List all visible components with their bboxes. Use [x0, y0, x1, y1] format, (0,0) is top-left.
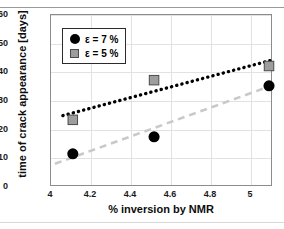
chart-legend: ε = 7 % ε = 5 %: [62, 28, 126, 64]
figure: 0102030405060 44.24.44.64.85 ε = 7 % ε =…: [0, 0, 284, 229]
data-point-epsilon-5: [149, 75, 159, 84]
x-axis-title: % inversion by NMR: [50, 203, 272, 215]
x-axis-tick-label: 4.6: [153, 190, 187, 199]
legend-marker-square-icon: [68, 49, 81, 58]
y-axis-tick-label: 50: [0, 39, 8, 48]
trendline-epsilon-7: [63, 60, 271, 115]
y-axis-tick-label: 60: [0, 10, 8, 19]
data-point-epsilon-7: [67, 148, 78, 159]
data-point-epsilon-5: [264, 61, 274, 70]
x-axis-tick-label: 4.8: [193, 190, 227, 199]
legend-label-epsilon-7: ε = 7 %: [85, 34, 118, 45]
legend-item-epsilon-7: ε = 7 %: [68, 32, 118, 46]
y-axis-tick-label: 30: [0, 96, 8, 105]
plot-area: ε = 7 % ε = 5 %: [50, 14, 272, 186]
y-axis-title: time of crack appearance [days]: [16, 4, 28, 184]
trendline-epsilon-5: [55, 86, 271, 164]
bottom-divider: [0, 222, 284, 223]
data-point-epsilon-5: [68, 115, 78, 124]
y-axis-tick-label: 0: [0, 182, 8, 191]
x-axis-tick-label: 5: [233, 190, 267, 199]
legend-item-epsilon-5: ε = 5 %: [68, 46, 118, 60]
data-point-epsilon-7: [149, 131, 160, 142]
top-divider: [0, 7, 284, 8]
y-axis-tick-label: 40: [0, 67, 8, 76]
y-axis-tick-label: 20: [0, 125, 8, 134]
x-axis-tick-label: 4: [33, 190, 67, 199]
data-point-epsilon-7: [263, 80, 274, 91]
x-axis-tick-label: 4.2: [73, 190, 107, 199]
legend-marker-circle-icon: [68, 34, 81, 44]
legend-label-epsilon-5: ε = 5 %: [85, 48, 118, 59]
x-axis-tick-label: 4.4: [113, 190, 147, 199]
y-axis-tick-label: 10: [0, 153, 8, 162]
